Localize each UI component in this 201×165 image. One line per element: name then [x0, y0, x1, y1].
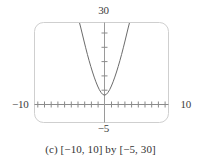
viewing-window-frame — [35, 23, 169, 123]
x-max-label: 10 — [180, 99, 191, 110]
figure-caption: (c) [−10, 10] by [−5, 30] — [0, 143, 201, 156]
figure-container: 30 −10 10 −5 (c) [−10, 10] by [−5, 30] — [0, 0, 201, 165]
graphing-window: 30 −10 10 −5 — [0, 0, 201, 132]
y-min-label: −5 — [3, 123, 201, 134]
x-min-label: −10 — [12, 99, 29, 110]
y-max-label: 30 — [3, 5, 201, 16]
plot-svg — [0, 0, 201, 132]
